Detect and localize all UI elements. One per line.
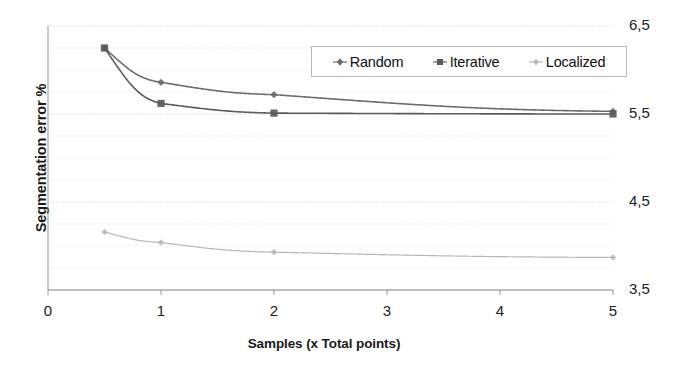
x-axis-title: Samples (x Total points) xyxy=(0,336,648,351)
legend-marker-iterative-icon xyxy=(433,56,447,68)
legend-item-iterative[interactable]: Iterative xyxy=(433,54,500,70)
chart-legend: Random Iterative Localized xyxy=(311,46,627,77)
x-tick-label-0: 0 xyxy=(33,302,63,319)
legend-item-localized[interactable]: Localized xyxy=(529,54,605,70)
x-tick-label-2: 2 xyxy=(259,302,289,319)
segmentation-error-chart: Segmentation error % Samples (x Total po… xyxy=(0,0,678,377)
legend-label-localized: Localized xyxy=(546,54,605,70)
legend-label-random: Random xyxy=(350,54,404,70)
y-tick-label-3-5: 3,5 xyxy=(629,280,675,297)
series-localized xyxy=(101,229,616,261)
x-tick-label-1: 1 xyxy=(146,302,176,319)
legend-label-iterative: Iterative xyxy=(450,54,500,70)
legend-marker-localized-icon xyxy=(529,56,543,68)
x-tick-label-4: 4 xyxy=(485,302,515,319)
y-tick-label-6-5: 6,5 xyxy=(629,16,675,33)
x-tick-label-3: 3 xyxy=(372,302,402,319)
y-tick-label-5-5: 5,5 xyxy=(629,104,675,121)
y-tick-label-4-5: 4,5 xyxy=(629,192,675,209)
x-tick-marks xyxy=(48,290,613,295)
x-tick-label-5: 5 xyxy=(598,302,628,319)
legend-marker-random-icon xyxy=(333,56,347,68)
legend-item-random[interactable]: Random xyxy=(333,54,404,70)
